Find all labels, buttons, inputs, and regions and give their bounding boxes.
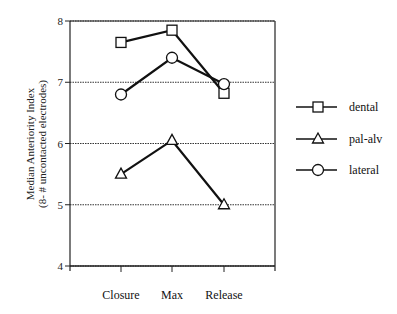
y-axis-title-line1: Median Anteriority Index [24,87,36,200]
circle-marker [219,79,230,90]
series-pal-alv [116,134,230,208]
data-series [116,25,230,209]
legend-item-dental: dental [296,100,379,114]
x-category-labels: ClosureMaxRelease [102,288,242,302]
y-tick-label: 8 [58,15,64,27]
legend-label: pal-alv [349,132,382,146]
series-lateral [116,52,230,100]
square-marker [313,102,323,112]
y-tick-label: 7 [58,76,64,88]
legend-label: dental [349,100,379,114]
circle-marker [167,52,178,63]
y-axis-title-line2: (8- # uncontacted electrodes) [36,80,49,208]
y-tick-labels: 45678 [58,15,64,272]
x-category-label: Max [161,288,183,302]
legend-item-pal-alv: pal-alv [296,132,382,146]
square-marker [116,37,126,47]
y-tick-label: 5 [58,199,64,211]
legend-item-lateral: lateral [296,163,380,177]
line-chart: 45678 ClosureMaxRelease Median Anteriori… [0,0,397,314]
x-category-label: Closure [102,288,139,302]
y-tick-label: 6 [58,138,64,150]
circle-marker [116,89,127,100]
triangle-marker [313,133,324,143]
triangle-marker [167,134,178,144]
triangle-marker [116,168,127,178]
x-category-label: Release [205,288,242,302]
circle-marker [313,165,324,176]
square-marker [167,25,177,35]
legend-label: lateral [349,163,380,177]
y-tick-label: 4 [58,260,64,272]
series-line [121,140,224,204]
legend: dentalpal-alvlateral [296,100,382,177]
